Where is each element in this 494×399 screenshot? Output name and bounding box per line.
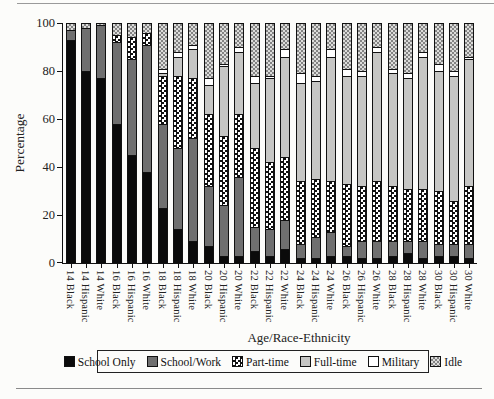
bar-24-black <box>296 23 306 263</box>
segment-full-time-28-black <box>389 73 397 186</box>
segment-military-24-hispanic <box>312 76 320 81</box>
segment-school-only-20-hispanic <box>220 256 228 263</box>
segment-idle-20-black <box>205 23 213 78</box>
segment-full-time-30-white <box>465 59 473 186</box>
segment-school-work-28-white <box>419 241 427 258</box>
segment-school-work-14-hispanic <box>82 28 90 71</box>
x-tick-30-black <box>439 264 440 268</box>
segment-school-only-24-white <box>327 256 335 263</box>
segment-school-work-18-white <box>189 138 197 241</box>
segment-part-time-20-hispanic <box>220 136 228 206</box>
segment-part-time-16-hispanic <box>128 37 136 59</box>
segment-idle-22-black <box>251 23 259 76</box>
legend-label-full-time: Full-time <box>314 356 357 368</box>
x-tick-18-white <box>193 264 194 268</box>
x-tick-26-black <box>347 264 348 268</box>
segment-part-time-20-black <box>205 114 213 186</box>
x-tick-30-white <box>469 264 470 268</box>
segment-military-20-black <box>205 78 213 85</box>
segment-full-time-22-hispanic <box>266 78 274 162</box>
bar-22-black <box>250 23 260 263</box>
segment-idle-14-white <box>97 23 105 25</box>
segment-idle-18-hispanic <box>174 23 182 52</box>
bar-28-hispanic <box>403 23 413 263</box>
segment-school-only-30-hispanic <box>450 256 458 263</box>
segment-part-time-18-white <box>189 78 197 138</box>
segment-part-time-30-white <box>465 186 473 244</box>
segment-full-time-24-black <box>297 83 305 181</box>
x-tick-16-black <box>117 264 118 268</box>
x-tick-label-26-black: 26 Black <box>341 270 352 309</box>
bar-14-black <box>66 23 76 263</box>
segment-school-work-30-black <box>435 244 443 256</box>
segment-idle-16-white <box>143 23 151 33</box>
segment-military-26-white <box>373 47 381 52</box>
segment-school-work-26-white <box>373 241 381 258</box>
y-tick-label-80: 80 <box>21 64 55 78</box>
segment-school-work-22-hispanic <box>266 229 274 255</box>
bar-20-hispanic <box>219 23 229 263</box>
segment-idle-26-white <box>373 23 381 47</box>
segment-full-time-20-hispanic <box>220 66 228 136</box>
bar-16-black <box>112 23 122 263</box>
bar-16-white <box>142 23 152 263</box>
segment-school-work-20-white <box>235 177 243 256</box>
segment-military-28-black <box>389 69 397 74</box>
x-tick-label-22-white: 22 White <box>279 270 290 310</box>
segment-school-work-22-white <box>281 220 289 249</box>
x-tick-label-22-black: 22 Black <box>249 270 260 309</box>
x-tick-16-white <box>147 264 148 268</box>
segment-idle-30-hispanic <box>450 23 458 71</box>
segment-part-time-24-white <box>327 181 335 231</box>
segment-idle-16-black <box>113 23 121 35</box>
legend-item-school-only: School Only <box>64 356 136 368</box>
segment-full-time-26-black <box>343 76 351 184</box>
segment-military-26-black <box>343 69 351 76</box>
segment-part-time-26-white <box>373 181 381 241</box>
segment-school-only-28-hispanic <box>404 253 412 263</box>
segment-school-only-20-black <box>205 246 213 263</box>
segment-idle-26-black <box>343 23 351 69</box>
segment-school-only-14-black <box>67 40 75 263</box>
segment-military-18-hispanic <box>174 52 182 57</box>
bar-30-black <box>434 23 444 263</box>
legend-swatch-school-work <box>147 356 158 367</box>
legend-item-military: Military <box>368 356 420 368</box>
x-tick-label-18-white: 18 White <box>187 270 198 310</box>
bottom-rule <box>16 388 482 389</box>
plot-area: 02040608010014 Black14 Hispanic14 White1… <box>62 23 477 264</box>
segment-part-time-24-black <box>297 181 305 243</box>
segment-part-time-16-black <box>113 35 121 42</box>
segment-school-only-14-white <box>97 78 105 263</box>
segment-idle-22-hispanic <box>266 23 274 76</box>
segment-school-work-30-white <box>465 244 473 258</box>
segment-school-only-22-black <box>251 251 259 263</box>
bar-24-white <box>326 23 336 263</box>
y-tick-label-0: 0 <box>21 256 55 270</box>
segment-military-28-hispanic <box>404 73 412 78</box>
x-tick-label-14-hispanic: 14 Hispanic <box>80 270 91 323</box>
x-tick-label-16-white: 16 White <box>141 270 152 310</box>
segment-school-only-28-white <box>419 258 427 263</box>
x-tick-28-black <box>393 264 394 268</box>
segment-full-time-20-black <box>205 85 213 114</box>
bar-26-hispanic <box>357 23 367 263</box>
segment-school-only-14-hispanic <box>82 71 90 263</box>
segment-part-time-22-white <box>281 157 289 219</box>
segment-school-only-26-hispanic <box>358 258 366 263</box>
x-tick-28-white <box>423 264 424 268</box>
segment-part-time-26-black <box>343 184 351 246</box>
segment-part-time-26-hispanic <box>358 186 366 241</box>
segment-school-work-20-black <box>205 186 213 246</box>
legend-swatch-full-time <box>300 356 311 367</box>
segment-military-22-black <box>251 76 259 83</box>
x-tick-24-white <box>331 264 332 268</box>
bar-14-hispanic <box>81 23 91 263</box>
segment-school-work-16-white <box>143 45 151 172</box>
segment-full-time-18-hispanic <box>174 57 182 76</box>
segment-idle-18-black <box>159 23 167 69</box>
legend-item-full-time: Full-time <box>300 356 357 368</box>
segment-part-time-30-hispanic <box>450 201 458 244</box>
bar-18-white <box>188 23 198 263</box>
legend-label-military: Military <box>382 356 420 368</box>
